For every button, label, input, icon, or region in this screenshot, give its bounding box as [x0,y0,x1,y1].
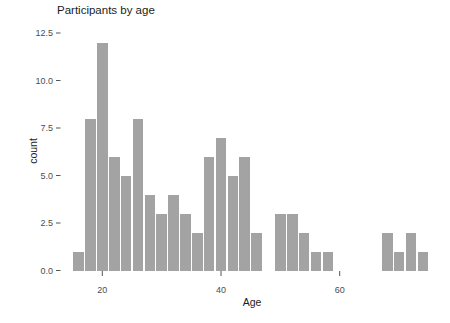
histogram-bar [109,157,120,271]
histogram-bar [275,214,286,271]
y-axis-tick-label: 2.5 [40,218,53,228]
histogram-bar [251,233,262,271]
histogram-bar [418,252,429,271]
x-axis-tick-label: 40 [216,285,226,295]
histogram-bar [85,119,96,271]
histogram-bar [121,176,132,271]
histogram-bar [97,43,108,271]
histogram-bar [73,252,84,271]
histogram-bar [168,195,179,271]
histogram-bar [311,252,322,271]
histogram-bar [216,138,227,271]
y-axis-tick-label: 0.0 [40,266,53,276]
histogram-bar [394,252,405,271]
x-axis-tick-label: 60 [335,285,345,295]
histogram-bar [239,157,250,271]
histogram-bar [287,214,298,271]
y-axis-tick-label: 5.0 [40,171,53,181]
histogram-bar [406,233,417,271]
y-axis-tick-label: 12.5 [35,28,53,38]
histogram-bar [145,195,156,271]
y-axis-tick-label: 10.0 [35,76,53,86]
plot-area: 2040600.02.55.07.510.012.5 [0,0,450,323]
histogram-bar [156,214,167,271]
histogram-bar [323,252,334,271]
histogram-bar [133,119,144,271]
histogram-bar [204,157,215,271]
chart-canvas: Participants by age count 2040600.02.55.… [0,0,450,323]
histogram-bar [382,233,393,271]
histogram-bar [228,176,239,271]
y-axis-tick-label: 7.5 [40,123,53,133]
x-axis-title: Age [202,295,302,309]
histogram-bar [192,233,203,271]
x-axis-tick-label: 20 [97,285,107,295]
histogram-bar [180,214,191,271]
histogram-bar [299,233,310,271]
